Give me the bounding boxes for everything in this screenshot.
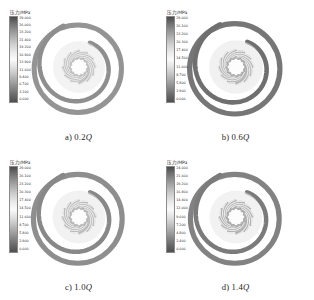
panel-c: 压力/MPa 29.000 26.100 23.200 20.300 17.40… <box>0 150 157 300</box>
colorbar-body-c: 29.000 26.100 23.200 20.300 17.400 14.50… <box>9 166 55 253</box>
colorbar-title-d: 压力/MPa <box>167 161 212 166</box>
caption-text: d) 1.4 <box>222 282 243 292</box>
colorbar-tick: 2.400 <box>176 240 188 243</box>
colorbar-tick: 2.900 <box>19 240 31 243</box>
colorbar-tick: 0.000 <box>19 98 31 101</box>
colorbar-tick: 14.500 <box>176 57 188 60</box>
colorbar-c: 压力/MPa 29.000 26.100 23.200 20.300 17.40… <box>9 161 55 253</box>
colorbar-tick: 0.000 <box>19 248 31 251</box>
colorbar-title-b: 压力/MPa <box>167 11 212 16</box>
colorbar-tick: 0.000 <box>176 248 188 251</box>
colorbar-tick: 2.900 <box>176 90 188 93</box>
colorbar-tick: 26.000 <box>19 24 31 27</box>
colorbar-ticks-c: 29.000 26.100 23.200 20.300 17.400 14.50… <box>19 166 31 252</box>
colorbar-tick: 5.800 <box>19 232 31 235</box>
colorbar-tick: 16.800 <box>176 191 188 194</box>
colorbar-tick: 0.000 <box>176 98 188 101</box>
caption-symbol: Q <box>86 132 92 142</box>
colorbar-tick: 29.000 <box>19 17 31 20</box>
colorbar-ticks-b: 29.000 26.100 23.200 20.300 17.400 14.50… <box>176 16 188 102</box>
colorbar-gradient-b <box>166 16 175 103</box>
colorbar-ticks-a: 29.000 26.000 23.200 21.400 19.200 16.90… <box>19 16 31 102</box>
colorbar-tick: 8.700 <box>176 74 188 77</box>
colorbar-a: 压力/MPa 29.000 26.000 23.200 21.400 19.20… <box>9 11 55 103</box>
colorbar-tick: 26.100 <box>176 25 188 28</box>
colorbar-tick: 9.400 <box>19 76 31 79</box>
colorbar-b: 压力/MPa 29.000 26.100 23.200 20.300 17.40… <box>166 11 212 103</box>
colorbar-tick: 9.600 <box>176 216 188 219</box>
panel-caption-b: b) 0.6Q <box>157 132 314 142</box>
panel-caption-d: d) 1.4Q <box>157 282 314 292</box>
colorbar-tick: 11.600 <box>19 216 31 219</box>
caption-symbol: Q <box>86 282 92 292</box>
colorbar-tick: 19.200 <box>19 46 31 49</box>
colorbar-tick: 23.200 <box>19 31 31 34</box>
colorbar-title-c: 压力/MPa <box>10 161 55 166</box>
colorbar-d: 压力/MPa 24.000 21.600 19.200 16.800 14.40… <box>166 161 212 253</box>
panel-d: 压力/MPa 24.000 21.600 19.200 16.800 14.40… <box>157 150 314 300</box>
panel-caption-a: a) 0.2Q <box>0 132 157 142</box>
colorbar-tick: 20.300 <box>19 191 31 194</box>
colorbar-tick: 7.200 <box>176 224 188 227</box>
colorbar-tick: 23.200 <box>176 33 188 36</box>
colorbar-tick: 29.000 <box>176 17 188 20</box>
panel-a: 压力/MPa 29.000 26.000 23.200 21.400 19.20… <box>0 0 157 150</box>
colorbar-tick: 3.200 <box>19 91 31 94</box>
colorbar-tick: 12.000 <box>176 207 188 210</box>
caption-text: c) 1.0 <box>65 282 86 292</box>
colorbar-tick: 21.600 <box>176 175 188 178</box>
colorbar-tick: 14.500 <box>19 207 31 210</box>
colorbar-tick: 29.000 <box>19 167 31 170</box>
colorbar-tick: 17.400 <box>19 199 31 202</box>
colorbar-ticks-d: 24.000 21.600 19.200 16.800 14.400 12.00… <box>176 166 188 252</box>
colorbar-tick: 26.100 <box>19 175 31 178</box>
colorbar-tick: 21.400 <box>19 39 31 42</box>
colorbar-tick: 4.800 <box>176 232 188 235</box>
colorbar-tick: 14.400 <box>176 199 188 202</box>
caption-symbol: Q <box>243 282 249 292</box>
colorbar-tick: 20.300 <box>176 41 188 44</box>
colorbar-gradient-c <box>9 166 18 253</box>
colorbar-tick: 5.800 <box>176 82 188 85</box>
colorbar-tick: 11.600 <box>19 69 31 72</box>
caption-text: a) 0.2 <box>65 132 86 142</box>
panel-caption-c: c) 1.0Q <box>0 282 157 292</box>
colorbar-tick: 19.200 <box>176 183 188 186</box>
colorbar-tick: 23.200 <box>19 183 31 186</box>
caption-symbol: Q <box>243 132 249 142</box>
contour-figure-grid: 压力/MPa 29.000 26.000 23.200 21.400 19.20… <box>0 0 314 300</box>
colorbar-tick: 6.700 <box>19 83 31 86</box>
panel-b: 压力/MPa 29.000 26.100 23.200 20.300 17.40… <box>157 0 314 150</box>
colorbar-tick: 24.000 <box>176 167 188 170</box>
colorbar-title-a: 压力/MPa <box>10 11 55 16</box>
colorbar-body-b: 29.000 26.100 23.200 20.300 17.400 14.50… <box>166 16 212 103</box>
colorbar-tick: 11.600 <box>176 66 188 69</box>
colorbar-body-d: 24.000 21.600 19.200 16.800 14.400 12.00… <box>166 166 212 253</box>
caption-text: b) 0.6 <box>222 132 243 142</box>
colorbar-gradient-a <box>9 16 18 103</box>
colorbar-tick: 13.900 <box>19 61 31 64</box>
colorbar-gradient-d <box>166 166 175 253</box>
colorbar-body-a: 29.000 26.000 23.200 21.400 19.200 16.90… <box>9 16 55 103</box>
colorbar-tick: 17.400 <box>176 49 188 52</box>
colorbar-tick: 16.900 <box>19 54 31 57</box>
colorbar-tick: 8.700 <box>19 224 31 227</box>
